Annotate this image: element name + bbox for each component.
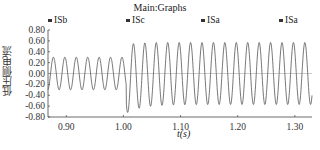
y-tick-label: 0.60 bbox=[28, 36, 45, 46]
y-tick-label: -0.60 bbox=[25, 101, 45, 111]
y-tick-label: 0.40 bbox=[28, 47, 45, 57]
x-tick-label: 0.90 bbox=[58, 122, 75, 132]
x-tick-label: 1.30 bbox=[287, 122, 304, 132]
y-tick-label: 0.80 bbox=[28, 25, 45, 35]
x-tick-label: 1.10 bbox=[172, 122, 189, 132]
x-tick-label: 1.00 bbox=[115, 122, 132, 132]
y-tick-label: 0.00 bbox=[28, 69, 45, 79]
data-series-line bbox=[48, 43, 312, 113]
plot-area: 0.800.600.400.200.00-0.20-0.40-0.60-0.80… bbox=[0, 0, 320, 150]
x-tick-label: 1.20 bbox=[229, 122, 246, 132]
y-tick-label: 0.20 bbox=[28, 58, 45, 68]
y-tick-label: -0.40 bbox=[25, 90, 45, 100]
y-tick-label: -0.80 bbox=[25, 112, 45, 122]
y-tick-label: -0.20 bbox=[25, 79, 45, 89]
